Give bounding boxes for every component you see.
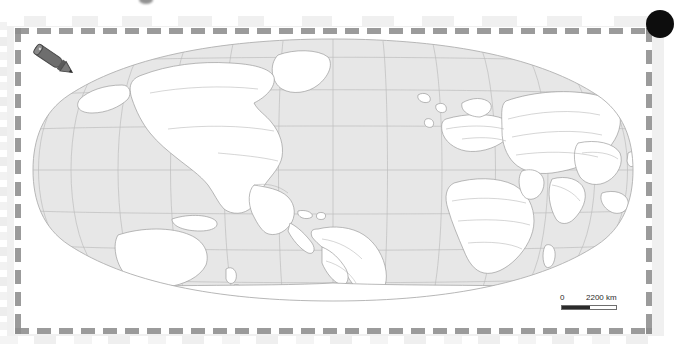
paper-edge-bottom [0,336,666,344]
scale-bar-track [561,305,617,310]
map-scale-bar: 0 2200 km [560,292,632,314]
top-edge-mark [139,0,153,4]
pencil-icon-svg [27,38,81,86]
scale-bar-max-label: 2200 km [586,292,617,303]
pencil-icon [27,38,81,86]
paper-edge-left [0,16,7,344]
corner-dot-icon [646,10,674,38]
world-map-svg [22,33,644,308]
scale-bar-labels: 0 2200 km [560,292,632,303]
scale-bar-min-label: 0 [560,292,564,303]
world-map [22,33,644,308]
scale-bar-fill [562,306,590,309]
